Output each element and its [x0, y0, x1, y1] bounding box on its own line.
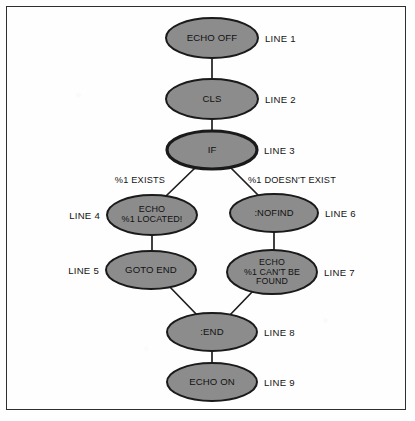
edge-label-e3: %1 EXISTS [115, 175, 165, 185]
node-if[interactable] [167, 131, 257, 169]
line-number-tag-if: LINE 3 [264, 145, 295, 156]
line-number-tag-echo-located: LINE 4 [69, 210, 100, 221]
line-number-tag-goto-end: LINE 5 [68, 265, 99, 276]
connector-if-to-echo-located [166, 167, 196, 196]
node-nofind[interactable] [230, 194, 318, 232]
line-number-tag-end: LINE 8 [264, 327, 295, 338]
node-goto-end[interactable] [106, 251, 196, 289]
line-number-tag-cls: LINE 2 [265, 94, 296, 105]
edge-label-e4: %1 DOESN'T EXIST [248, 175, 336, 185]
node-echo-on[interactable] [167, 363, 257, 401]
node-cls[interactable] [166, 79, 258, 119]
line-number-tag-echo-not-found: LINE 7 [324, 267, 355, 278]
connector-goto-end-to-end [168, 285, 198, 316]
node-echo-off[interactable] [166, 18, 258, 58]
line-number-tag-echo-off: LINE 1 [265, 33, 296, 44]
line-number-tag-echo-on: LINE 9 [264, 377, 295, 388]
node-end[interactable] [167, 313, 257, 351]
flowchart-page: %1 EXISTS%1 DOESN'T EXISTECHO OFFLINE 1C… [0, 0, 415, 421]
node-echo-located[interactable] [107, 195, 197, 235]
connector-echo-not-found-to-end [228, 290, 254, 317]
node-echo-not-found[interactable] [227, 250, 317, 294]
line-number-tag-nofind: LINE 6 [325, 208, 356, 219]
